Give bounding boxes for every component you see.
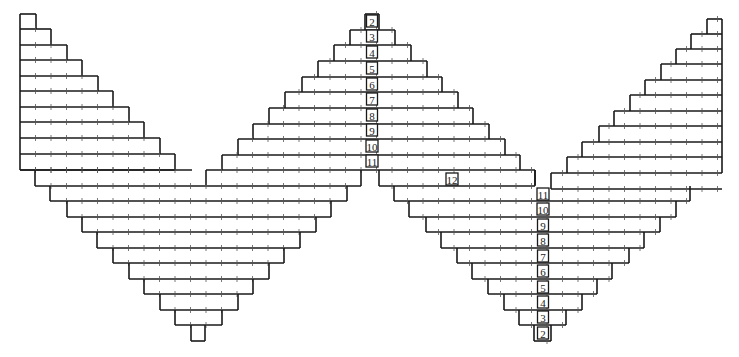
row-number-label: 2 <box>540 328 546 340</box>
row-number-label: 5 <box>369 63 375 75</box>
row-number-label: 10 <box>367 141 379 153</box>
stitch-chart: 23456789101111109876543212 <box>0 0 739 357</box>
row-number-label: 7 <box>369 94 375 106</box>
row-number-label: 8 <box>540 235 546 247</box>
row-number-label: 11 <box>538 189 549 201</box>
row-number-label: 4 <box>540 297 546 309</box>
right-v-section <box>379 170 690 344</box>
row-number-label: 3 <box>540 312 546 324</box>
row-number-label: 3 <box>369 31 375 43</box>
row-number-label: 7 <box>540 251 546 263</box>
row-number-label: 9 <box>540 220 546 232</box>
row-number-label: 2 <box>369 16 375 28</box>
row-number-label: 8 <box>369 110 375 122</box>
row-number-label: 10 <box>538 204 550 216</box>
row-number-label: 4 <box>369 47 375 59</box>
row-number-label: 11 <box>367 156 378 168</box>
left-triangle-section <box>20 14 175 173</box>
left-v-section <box>20 167 361 341</box>
row-number-label: 6 <box>369 79 375 91</box>
row-number-labels: 23456789101111109876543212 <box>366 15 549 340</box>
row-number-label: 6 <box>540 266 546 278</box>
row-number-label: 5 <box>540 282 546 294</box>
row-number-label: 12 <box>447 174 458 186</box>
row-number-label: 9 <box>369 125 375 137</box>
right-triangle-section <box>551 16 722 192</box>
